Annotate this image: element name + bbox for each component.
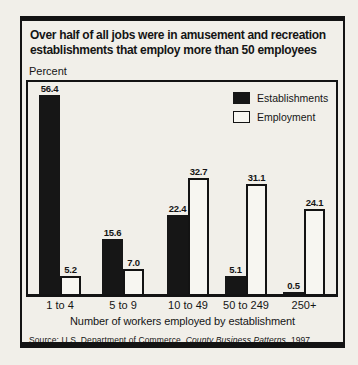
chart-title-line-1: Over half of all jobs were in amusement …	[30, 28, 335, 43]
category-label: 1 to 4	[46, 299, 74, 311]
source-suffix: , 1997	[286, 335, 310, 345]
legend-item-establishments: Establishments	[233, 92, 328, 104]
chart-title: Over half of all jobs were in amusement …	[30, 28, 335, 57]
category-label: 10 to 49	[168, 299, 208, 311]
employment-bar	[60, 276, 81, 294]
category-label: 250+	[292, 299, 317, 311]
category-label: 5 to 9	[109, 299, 137, 311]
bar-value-label: 24.1	[293, 197, 337, 208]
plot-area: Establishments Employment 56.45.215.67.0…	[26, 80, 338, 297]
establishments-bar	[283, 292, 304, 294]
legend-label: Employment	[257, 111, 315, 123]
bar-value-label: 31.1	[235, 172, 279, 183]
bar-value-label: 56.4	[28, 83, 72, 94]
y-axis-unit-label: Percent	[29, 65, 343, 77]
legend: Establishments Employment	[233, 92, 328, 130]
bar-value-label: 32.7	[177, 166, 221, 177]
source-publication: County Business Patterns	[186, 335, 286, 345]
employment-bar	[304, 209, 325, 294]
legend-label: Establishments	[257, 92, 328, 104]
x-axis-title: Number of workers employed by establishm…	[22, 315, 343, 327]
bar-value-label: 5.2	[49, 264, 93, 275]
page: { "title_lines": [ "Over half of all job…	[0, 0, 358, 365]
legend-item-employment: Employment	[233, 111, 328, 123]
employment-bar	[246, 184, 267, 294]
employment-bar	[123, 269, 144, 294]
establishments-bar	[225, 276, 246, 294]
employment-swatch-icon	[233, 111, 250, 123]
bar-value-label: 15.6	[91, 227, 135, 238]
source-prefix: Source: U.S. Department of Commerce,	[29, 335, 186, 345]
employment-bar	[188, 178, 209, 294]
chart-title-line-2: establishments that employ more than 50 …	[30, 43, 335, 58]
establishments-bar	[167, 215, 188, 294]
source-note: Source: U.S. Department of Commerce, Cou…	[29, 335, 343, 345]
category-label: 50 to 249	[223, 299, 269, 311]
figure-frame: Over half of all jobs were in amusement …	[20, 16, 345, 348]
bar-value-label: 7.0	[112, 257, 156, 268]
establishments-swatch-icon	[233, 92, 250, 104]
category-axis: 1 to 45 to 910 to 4950 to 249250+	[26, 299, 338, 313]
